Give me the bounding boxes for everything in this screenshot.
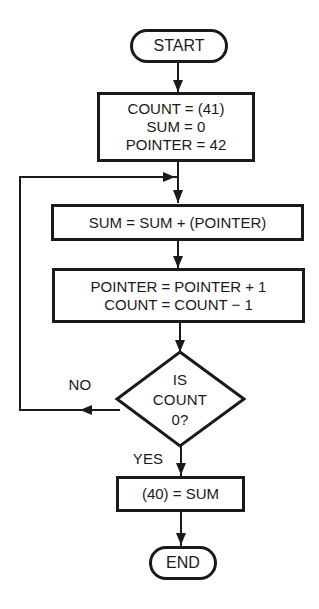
start-terminal: START [130, 29, 228, 63]
update-pointer: POINTER = POINTER + 1 [91, 278, 267, 296]
accumulate-label: SUM = SUM + (POINTER) [89, 214, 267, 232]
init-pointer: POINTER = 42 [126, 136, 226, 154]
yes-branch-label: YES [128, 450, 168, 467]
store-process-box: (40) = SUM [116, 476, 245, 512]
store-label: (40) = SUM [142, 485, 219, 503]
update-count: COUNT = COUNT − 1 [104, 296, 253, 314]
decision-text: IS COUNT 0? [140, 370, 220, 430]
decision-line-1: IS [140, 370, 220, 390]
no-branch-label: NO [60, 376, 100, 393]
init-count: COUNT = (41) [128, 100, 225, 118]
init-process-box: COUNT = (41) SUM = 0 POINTER = 42 [97, 92, 255, 162]
decision-line-2: COUNT [140, 390, 220, 410]
decision-line-3: 0? [140, 410, 220, 430]
update-process-box: POINTER = POINTER + 1 COUNT = COUNT − 1 [52, 268, 305, 323]
end-label: END [166, 554, 200, 572]
end-terminal: END [149, 546, 217, 580]
init-sum: SUM = 0 [147, 118, 206, 136]
accumulate-process-box: SUM = SUM + (POINTER) [51, 204, 304, 241]
start-label: START [154, 37, 205, 55]
